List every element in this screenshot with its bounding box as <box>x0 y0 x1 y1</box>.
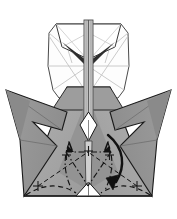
origami-illustration <box>0 0 177 219</box>
origami-diagram-figure: Origami folding step diagram Symmetric w… <box>0 0 177 219</box>
